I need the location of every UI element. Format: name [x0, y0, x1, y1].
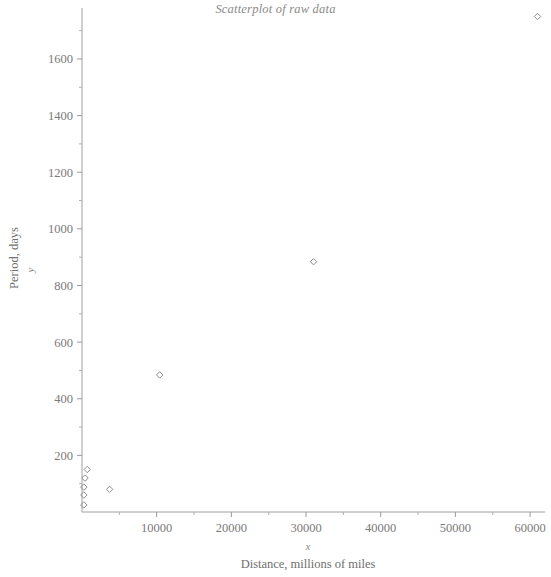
x-tick-label: 40000 — [365, 521, 396, 535]
x-axis-title: Distance, millions of miles — [241, 557, 376, 571]
y-tick-label: 200 — [54, 449, 73, 463]
data-point-marker — [310, 258, 316, 264]
y-tick-label: 1400 — [48, 109, 73, 123]
data-point-marker — [82, 475, 88, 481]
y-tick-label: 1200 — [48, 166, 73, 180]
data-point-marker — [534, 13, 540, 19]
axes — [82, 8, 545, 512]
data-point-marker — [106, 486, 112, 492]
data-point-marker — [84, 466, 90, 472]
x-axis-ticks: 100002000030000400005000060000 — [119, 512, 545, 535]
y-tick-label: 800 — [54, 279, 73, 293]
y-tick-label: 1000 — [48, 222, 73, 236]
y-tick-label: 600 — [54, 336, 73, 350]
data-point-marker — [156, 372, 162, 378]
x-tick-label: 30000 — [290, 521, 321, 535]
data-points — [81, 13, 541, 508]
x-tick-label: 10000 — [141, 521, 172, 535]
y-axis-ticks: 2004006008001000120014001600 — [48, 31, 82, 484]
x-tick-label: 60000 — [514, 521, 545, 535]
y-variable-label: y — [24, 267, 36, 273]
y-tick-label: 400 — [54, 392, 73, 406]
plot-canvas: 2004006008001000120014001600 10000200003… — [0, 0, 551, 577]
x-variable-label: x — [305, 540, 311, 552]
scatterplot-figure: Scatterplot of raw data 2004006008001000… — [0, 0, 551, 577]
x-tick-label: 50000 — [440, 521, 471, 535]
y-tick-label: 1600 — [48, 52, 73, 66]
y-axis-title: Period, days — [7, 227, 21, 289]
x-tick-label: 20000 — [216, 521, 247, 535]
